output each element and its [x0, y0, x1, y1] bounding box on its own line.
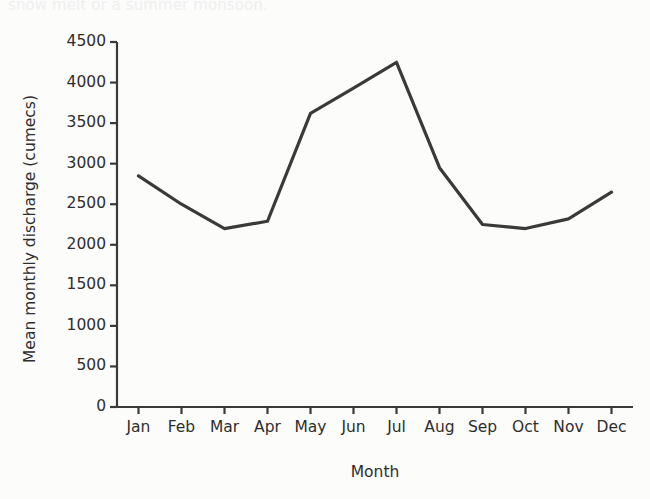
y-tick-label: 1000 — [67, 316, 106, 334]
axes — [117, 42, 633, 407]
y-tick-label: 500 — [76, 356, 106, 374]
chart-figure: snow melt or a summer monsoon. Mean mont… — [0, 0, 650, 499]
data-series — [139, 62, 612, 228]
x-tick-label: Dec — [582, 418, 642, 436]
y-tick-label: 3000 — [67, 154, 106, 172]
y-tick-label: 2000 — [67, 235, 106, 253]
y-tick-label: 0 — [96, 397, 106, 415]
y-tick-label: 4000 — [67, 73, 106, 91]
y-tick-label: 3500 — [67, 113, 106, 131]
y-tick-label: 4500 — [67, 32, 106, 50]
tick-marks — [110, 42, 612, 414]
y-tick-label: 2500 — [67, 194, 106, 212]
y-tick-label: 1500 — [67, 275, 106, 293]
